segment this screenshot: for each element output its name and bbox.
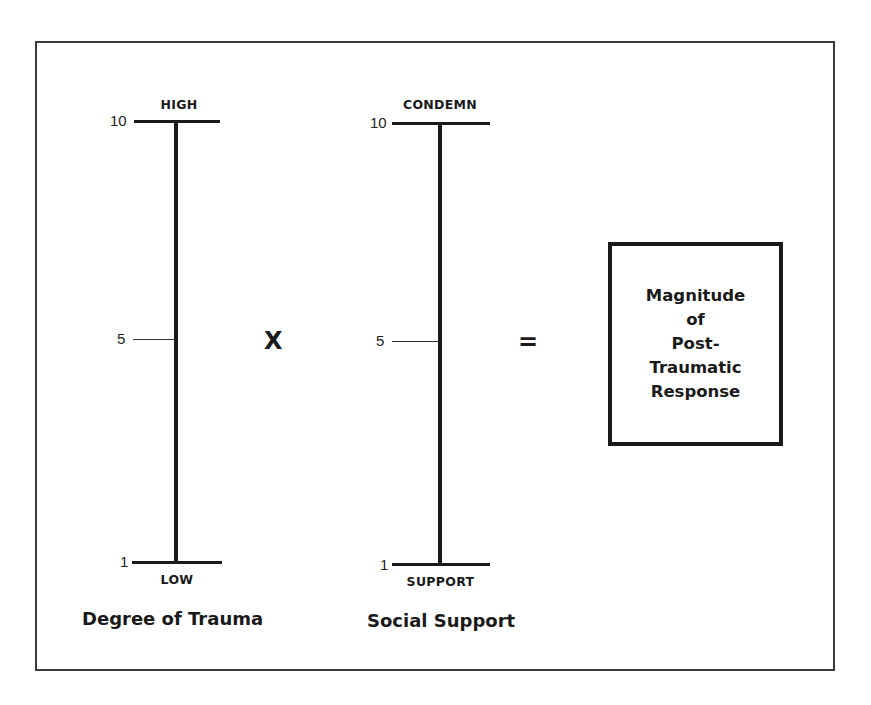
scale-top-label: HIGH xyxy=(139,97,219,112)
result-text: Magnitude of Post- Traumatic Response xyxy=(646,284,745,404)
scale-title: Degree of Trauma xyxy=(82,608,263,629)
result-line: Response xyxy=(646,380,745,404)
tick-label-1: 1 xyxy=(120,553,128,570)
tick-label-1: 1 xyxy=(380,556,388,573)
scale-top-label: CONDEMN xyxy=(385,97,495,112)
tick-label-10: 10 xyxy=(110,112,127,129)
result-line: Magnitude xyxy=(646,284,745,308)
tick-label-5: 5 xyxy=(117,330,125,347)
tick-5-line xyxy=(392,341,439,342)
scale-axis-line xyxy=(174,120,178,563)
scale-axis-line xyxy=(438,122,442,565)
scale-title: Social Support xyxy=(367,610,515,631)
result-line: of xyxy=(646,308,745,332)
tick-5-line xyxy=(133,339,175,340)
tick-1-line xyxy=(132,561,222,564)
equals-operator: = xyxy=(518,328,538,356)
scale-bottom-label: SUPPORT xyxy=(388,574,493,589)
scale-bottom-label: LOW xyxy=(137,572,217,587)
multiply-operator: X xyxy=(264,327,283,355)
result-box: Magnitude of Post- Traumatic Response xyxy=(608,242,783,446)
result-line: Post- xyxy=(646,332,745,356)
result-line: Traumatic xyxy=(646,356,745,380)
tick-label-5: 5 xyxy=(376,332,384,349)
tick-1-line xyxy=(392,563,490,566)
tick-label-10: 10 xyxy=(370,114,387,131)
